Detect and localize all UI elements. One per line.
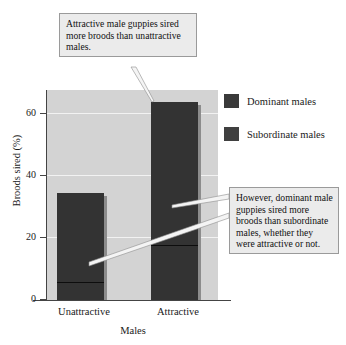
legend-item-subordinate-males: Subordinate males (224, 127, 344, 141)
chart-figure: 60 40 20 0 Broods sired (%) Unattractive… (0, 0, 346, 345)
y-tick-label-0: 0 (10, 294, 36, 304)
bar-split-attractive-subordinate (151, 245, 198, 246)
legend-swatch-dominant-males (224, 94, 239, 108)
bar-unattractive-dominant (57, 193, 104, 300)
y-axis-line (46, 90, 47, 301)
callout-right-text: However, dominant male guppies sired mor… (229, 187, 339, 254)
legend-label-dominant-males: Dominant males (247, 96, 316, 107)
y-tick-mark-60 (40, 113, 46, 114)
bar-split-unattractive-subordinate (57, 282, 104, 283)
legend-swatch-subordinate-males (224, 127, 239, 141)
x-axis-line (33, 300, 231, 301)
y-tick-mark-0 (40, 299, 46, 300)
x-axis-title: Males (0, 325, 266, 336)
y-tick-mark-40 (40, 175, 46, 176)
y-tick-mark-20 (40, 237, 46, 238)
y-axis-title: Broods sired (%) (11, 111, 22, 231)
x-tick-label-unattractive: Unattractive (44, 306, 124, 317)
bar-attractive-dominant (151, 102, 198, 300)
legend-label-subordinate-males: Subordinate males (247, 129, 325, 140)
legend-item-dominant-males: Dominant males (224, 94, 344, 108)
x-tick-label-attractive: Attractive (141, 306, 215, 317)
plot-area (47, 90, 218, 300)
callout-top-text: Attractive male guppies sired more brood… (59, 13, 197, 57)
chart-legend: Dominant males Subordinate males (224, 94, 344, 160)
y-tick-label-20: 20 (10, 232, 36, 242)
